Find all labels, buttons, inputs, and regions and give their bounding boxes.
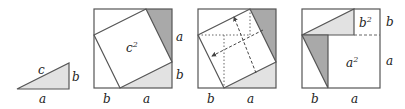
label-bottom-a: a [351,92,358,106]
label-a-squared: a2 [346,55,358,70]
label-bottom-b: b [311,92,319,106]
label-bottom-a: a [143,92,150,106]
label-c-squared: c2 [126,40,138,55]
panel-triangle: c b a [17,63,80,106]
light-triangle [302,9,354,35]
label-c: c [38,63,45,77]
label-right-a: a [386,54,393,68]
panel-a2-b2: b2 a2 b a b a [302,9,394,106]
dashed-arrow-up [234,17,256,73]
pythagorean-proof-diagram: c b a c2 a b b a b a b2 a2 b a [0,0,405,109]
dark-triangle [302,35,328,88]
label-bottom-b: b [207,92,215,106]
label-right-b: b [386,15,394,29]
label-right-a: a [176,30,183,44]
label-bottom-b: b [103,92,111,106]
label-bottom-a: a [247,92,254,106]
panel-c-squared: c2 a b b a [94,9,184,106]
panel-dissection: b a [198,9,276,106]
label-b-squared: b2 [359,15,372,30]
label-right-b: b [176,68,184,82]
label-b: b [72,70,80,84]
dashed-arrow-left [212,30,263,56]
label-a: a [39,92,46,106]
